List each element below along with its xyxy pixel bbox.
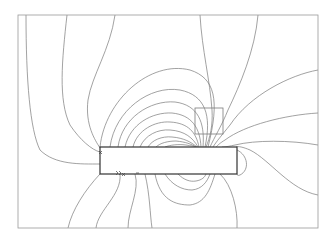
field-line-diagram [0, 0, 334, 236]
rectangular-body [100, 147, 237, 174]
plot-frame [18, 15, 318, 228]
field-lines [26, 15, 318, 228]
